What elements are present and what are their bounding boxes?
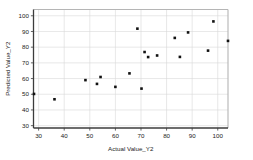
x-tick-label: 80 — [163, 132, 170, 139]
grid-lines — [34, 10, 229, 129]
x-tick-label: 40 — [61, 132, 68, 139]
y-tick-label: 40 — [22, 106, 29, 113]
data-point — [179, 56, 182, 59]
x-axis-title: Actual Value_Y2 — [108, 145, 154, 152]
chart-canvas: 3040506070809010030405060708090100Actual… — [0, 0, 253, 160]
x-axis-ticks: 30405060708090100 — [35, 128, 223, 139]
data-point — [84, 79, 87, 82]
data-point — [212, 20, 215, 23]
data-point — [96, 83, 99, 86]
data-points-group — [33, 20, 230, 100]
y-tick-label: 90 — [22, 28, 29, 35]
scatter-plot-figure: 3040506070809010030405060708090100Actual… — [0, 0, 253, 160]
data-point — [33, 93, 36, 96]
data-point — [173, 37, 176, 40]
data-point — [99, 76, 102, 79]
data-point — [147, 56, 150, 59]
data-point — [140, 87, 143, 90]
data-point — [53, 98, 56, 101]
data-point — [227, 40, 230, 43]
data-point — [136, 27, 139, 30]
y-tick-label: 80 — [22, 43, 29, 50]
y-tick-label: 60 — [22, 75, 29, 82]
y-axis-title: Predicted Value_Y2 — [4, 41, 11, 96]
x-tick-label: 90 — [189, 132, 196, 139]
x-tick-label: 60 — [112, 132, 119, 139]
y-axis-ticks: 30405060708090100 — [19, 12, 34, 129]
y-tick-label: 100 — [19, 12, 30, 19]
data-point — [143, 51, 146, 54]
y-tick-label: 30 — [22, 122, 29, 129]
x-tick-label: 30 — [35, 132, 42, 139]
y-tick-label: 50 — [22, 90, 29, 97]
data-point — [114, 86, 117, 89]
x-tick-label: 70 — [138, 132, 145, 139]
x-tick-label: 100 — [213, 132, 224, 139]
data-point — [156, 54, 159, 57]
data-point — [187, 31, 190, 34]
data-point — [207, 49, 210, 52]
y-tick-label: 70 — [22, 59, 29, 66]
x-tick-label: 50 — [86, 132, 93, 139]
data-point — [128, 72, 131, 75]
